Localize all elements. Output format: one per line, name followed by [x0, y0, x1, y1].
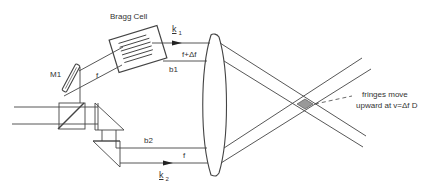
freq-shifted-label: f+Δf	[182, 51, 196, 59]
fringe-note-line2: upward at v=Δf D	[356, 100, 418, 111]
beam-k1	[152, 41, 210, 46]
freq-f-upper-label: f	[96, 72, 98, 80]
k2-subscript: 2	[166, 176, 169, 182]
k1-symbol: k	[172, 24, 177, 34]
k2-symbol: k	[159, 170, 164, 180]
k2-label: k2	[159, 171, 169, 180]
k1-label: k1	[172, 25, 182, 34]
b2-label: b2	[144, 137, 153, 145]
k1-subscript: 1	[179, 30, 182, 36]
optical-diagram: Bragg Cell M1 f k1 f+Δf b1 b2 f k2 fring…	[0, 0, 435, 192]
beam-k2	[120, 161, 208, 166]
note-leader	[315, 96, 352, 104]
b1-label: b1	[169, 66, 178, 74]
freq-f-lower-label: f	[183, 152, 185, 160]
mirror-label: M1	[50, 71, 61, 79]
fringe-note: fringes move upward at v=Δf D	[356, 89, 418, 111]
beams-to-bragg	[64, 47, 123, 96]
bragg-cell-label: Bragg Cell	[110, 13, 147, 21]
focused-beams	[220, 43, 371, 163]
fringe-note-line1: fringes move	[356, 89, 418, 100]
bragg-cell	[109, 25, 167, 72]
lens	[203, 34, 227, 176]
input-beams	[12, 107, 86, 124]
mirror-m1	[62, 64, 80, 93]
